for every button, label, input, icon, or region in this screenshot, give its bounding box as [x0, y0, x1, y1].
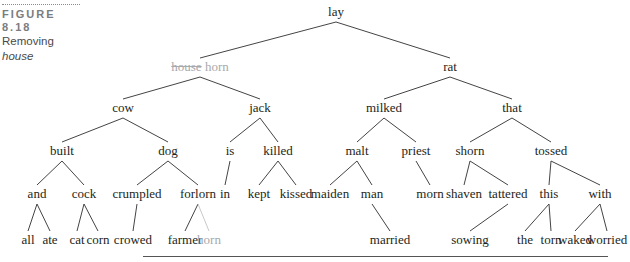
tree-node-is: is — [226, 144, 235, 158]
edge-househorn-cow — [123, 77, 200, 99]
edge-rat-that — [450, 77, 512, 99]
tree-node-kept: kept — [248, 187, 270, 201]
edge-with-worried — [600, 204, 607, 231]
tree-node-cat: cat — [69, 233, 84, 247]
tree-node-cow: cow — [112, 101, 134, 115]
tree-node-this: this — [540, 187, 559, 201]
edge-killed-kissed — [278, 161, 296, 185]
edge-forlorn-horn — [198, 204, 209, 231]
edge-milked-priest — [384, 118, 416, 142]
edge-man-married — [372, 204, 390, 231]
tree-node-shaven: shaven — [446, 187, 482, 201]
edge-built-and — [37, 161, 62, 185]
edge-that-tossed — [512, 118, 551, 142]
edge-tossed-with — [551, 161, 600, 185]
edge-is-in — [225, 161, 230, 185]
tree-node-man: man — [361, 187, 383, 201]
tree-node-sowing: sowing — [451, 233, 489, 247]
tree-node-worried: worried — [587, 233, 627, 247]
edge-with-waked — [575, 204, 600, 231]
tree-node-all: all — [22, 233, 35, 247]
tree-node-horn: horn — [197, 233, 221, 247]
edge-shorn-shaven — [464, 161, 470, 185]
tree-node-crowed: crowed — [114, 233, 152, 247]
tree-node-malt: malt — [345, 144, 368, 158]
edge-built-cock — [62, 161, 84, 185]
edge-jack-killed — [260, 118, 278, 142]
edge-crumpled-crowed — [133, 204, 137, 231]
tree-node-jack: jack — [249, 101, 271, 115]
tree-node-crumpled: crumpled — [112, 187, 161, 201]
tree-node-corn: corn — [86, 233, 109, 247]
tree-edges — [0, 0, 630, 262]
edge-this-the — [525, 204, 549, 231]
node-label-removed: house — [171, 59, 201, 74]
tree-node-shorn: shorn — [456, 144, 485, 158]
tree-node-maiden: maiden — [311, 187, 349, 201]
tree-node-in: in — [220, 187, 230, 201]
tree-node-househorn: house horn — [171, 60, 228, 74]
edge-malt-maiden — [330, 161, 357, 185]
tree-node-lay: lay — [328, 5, 344, 19]
tree-node-ate: ate — [42, 233, 57, 247]
tree-node-tattered: tattered — [489, 187, 528, 201]
edge-cow-dog — [123, 118, 168, 142]
tree-node-forlorn: forlorn — [180, 187, 216, 201]
edge-forlorn-farmer — [185, 204, 198, 231]
tree-node-married: married — [370, 233, 410, 247]
edge-rat-milked — [384, 77, 450, 99]
edge-milked-malt — [357, 118, 384, 142]
tree-node-cock: cock — [72, 187, 97, 201]
edge-tossed-this — [549, 161, 551, 185]
edge-dog-crumpled — [137, 161, 168, 185]
edge-cock-corn — [84, 204, 98, 231]
tree-node-built: built — [50, 144, 74, 158]
tree-node-the: the — [517, 233, 533, 247]
tree-node-and: and — [28, 187, 47, 201]
tree-node-kissed: kissed — [280, 187, 313, 201]
edge-jack-is — [230, 118, 260, 142]
edge-lay-rat — [336, 22, 450, 58]
edge-that-shorn — [470, 118, 512, 142]
node-label-replacement: horn — [202, 59, 229, 74]
edge-cock-cat — [77, 204, 84, 231]
tree-node-milked: milked — [366, 101, 402, 115]
edge-cow-built — [62, 118, 123, 142]
edge-this-torn — [549, 204, 551, 231]
tree-node-morn: morn — [416, 187, 443, 201]
tree-node-priest: priest — [402, 144, 431, 158]
tree-node-tossed: tossed — [535, 144, 568, 158]
tree-node-with: with — [588, 187, 611, 201]
edge-shorn-tattered — [470, 161, 508, 185]
edge-tattered-sowing — [470, 204, 508, 231]
bottom-rule — [143, 256, 608, 257]
edge-killed-kept — [259, 161, 278, 185]
edge-dog-forlorn — [168, 161, 198, 185]
edge-priest-morn — [416, 161, 430, 185]
tree-node-that: that — [502, 101, 522, 115]
edge-househorn-jack — [200, 77, 260, 99]
edge-and-ate — [37, 204, 50, 231]
tree-node-rat: rat — [443, 60, 457, 74]
edge-lay-househorn — [200, 22, 336, 58]
tree-node-dog: dog — [158, 144, 178, 158]
edge-malt-man — [357, 161, 372, 185]
tree-node-killed: killed — [263, 144, 293, 158]
edge-and-all — [28, 204, 37, 231]
